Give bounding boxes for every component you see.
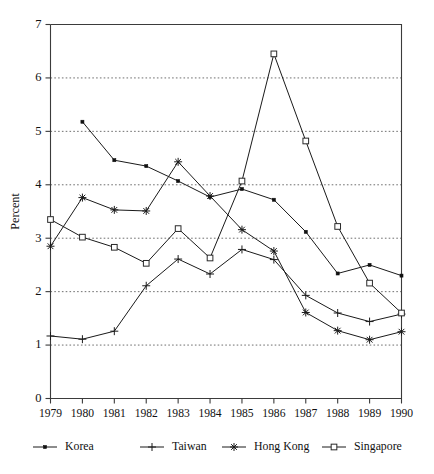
- data-point-singapore-1979: [48, 217, 54, 223]
- open-square-marker-icon: [80, 234, 86, 240]
- data-point-singapore-1990: [399, 310, 405, 316]
- series-polyline: [51, 162, 402, 340]
- chart-figure: 01234567 1979198019811982198319841985198…: [0, 0, 434, 474]
- data-point-hong-kong-1987: [302, 308, 310, 316]
- filled-square-marker-icon: [272, 198, 275, 201]
- data-point-korea-1980: [81, 120, 84, 123]
- plus-marker-icon: [47, 332, 55, 340]
- x-tick-label: 1985: [230, 407, 253, 420]
- y-tick-label: 2: [35, 284, 41, 298]
- x-axis-ticks: 1979198019811982198319841985198619871988…: [39, 399, 413, 420]
- data-point-taiwan-1989: [366, 318, 374, 326]
- data-point-singapore-1984: [207, 255, 213, 261]
- data-point-korea-1986: [272, 198, 275, 201]
- data-point-hong-kong-1989: [366, 336, 374, 344]
- star-marker-icon: [238, 226, 246, 234]
- star-marker-icon: [78, 194, 86, 202]
- data-point-taiwan-1979: [47, 332, 55, 340]
- star-marker-icon: [270, 247, 278, 255]
- filled-square-marker-icon: [336, 272, 339, 275]
- data-point-taiwan-1981: [110, 327, 118, 335]
- y-axis-title: Percent: [8, 193, 22, 230]
- filled-square-marker-icon: [177, 180, 180, 183]
- filled-square-marker-icon: [145, 165, 148, 168]
- data-point-singapore-1981: [111, 244, 117, 250]
- open-square-marker-icon: [271, 51, 277, 57]
- star-marker-icon: [302, 308, 310, 316]
- series-polyline: [51, 249, 402, 339]
- data-point-korea-1981: [113, 159, 116, 162]
- data-point-hong-kong-1990: [398, 328, 406, 336]
- data-point-korea-1989: [368, 263, 371, 266]
- x-tick-label: 1987: [294, 407, 317, 420]
- star-marker-icon: [47, 242, 55, 250]
- series-polyline: [51, 54, 402, 313]
- plus-marker-icon: [148, 443, 156, 451]
- open-square-marker-icon: [48, 217, 54, 223]
- data-point-singapore-1986: [271, 51, 277, 57]
- plus-marker-icon: [110, 327, 118, 335]
- filled-square-marker-icon: [400, 274, 403, 277]
- open-square-marker-icon: [207, 255, 213, 261]
- star-marker-icon: [206, 192, 214, 200]
- x-tick-label: 1980: [71, 407, 94, 420]
- open-square-marker-icon: [111, 244, 117, 250]
- series-taiwan: [47, 245, 406, 343]
- star-marker-icon: [110, 206, 118, 214]
- star-marker-icon: [142, 207, 150, 215]
- star-marker-icon: [174, 158, 182, 166]
- star-marker-icon: [366, 336, 374, 344]
- x-tick-label: 1986: [262, 407, 285, 420]
- filled-square-marker-icon: [304, 230, 307, 233]
- open-square-marker-icon: [175, 226, 181, 232]
- data-point-hong-kong-1980: [78, 194, 86, 202]
- data-point-hong-kong-1981: [110, 206, 118, 214]
- open-square-marker-icon: [331, 444, 337, 450]
- y-axis-ticks: 01234567: [35, 17, 50, 405]
- axes-frame: [51, 25, 402, 399]
- x-tick-label: 1990: [390, 407, 413, 420]
- data-point-hong-kong-1979: [47, 242, 55, 250]
- data-point-singapore-1989: [367, 280, 373, 286]
- legend-label-text: Korea: [65, 439, 95, 453]
- data-point-hong-kong-1983: [174, 158, 182, 166]
- open-square-marker-icon: [399, 310, 405, 316]
- open-square-marker-icon: [239, 178, 245, 184]
- legend-item-hong-kong[interactable]: Hong Kong: [222, 439, 309, 453]
- plus-marker-icon: [78, 335, 86, 343]
- filled-square-marker-icon: [43, 445, 46, 448]
- plus-marker-icon: [206, 270, 214, 278]
- data-point-singapore-1982: [143, 260, 149, 266]
- data-point-hong-kong-1988: [334, 327, 342, 335]
- data-point-legend-hong-kong: [230, 443, 238, 451]
- data-point-korea-1983: [177, 180, 180, 183]
- data-point-legend-korea: [43, 445, 46, 448]
- legend-item-singapore[interactable]: Singapore: [322, 439, 402, 453]
- data-point-hong-kong-1985: [238, 226, 246, 234]
- filled-square-marker-icon: [240, 188, 243, 191]
- data-point-legend-taiwan: [148, 443, 156, 451]
- star-marker-icon: [230, 443, 238, 451]
- data-point-taiwan-1980: [78, 335, 86, 343]
- series-singapore: [48, 51, 405, 316]
- legend-item-korea[interactable]: Korea: [33, 439, 95, 453]
- star-marker-icon: [398, 328, 406, 336]
- open-square-marker-icon: [143, 260, 149, 266]
- data-point-singapore-1988: [335, 224, 341, 230]
- y-tick-label: 7: [35, 17, 41, 31]
- star-marker-icon: [334, 327, 342, 335]
- filled-square-marker-icon: [81, 120, 84, 123]
- y-axis-label-text: Percent: [8, 193, 22, 230]
- x-tick-label: 1984: [198, 407, 221, 420]
- y-tick-label: 1: [35, 337, 41, 351]
- data-point-korea-1988: [336, 272, 339, 275]
- data-point-taiwan-1984: [206, 270, 214, 278]
- data-point-singapore-1987: [303, 138, 309, 144]
- legend-item-taiwan[interactable]: Taiwan: [140, 439, 207, 453]
- grid-lines: [51, 78, 402, 345]
- data-point-korea-1990: [400, 274, 403, 277]
- series-korea: [81, 120, 403, 277]
- line-chart-canvas: 01234567 1979198019811982198319841985198…: [0, 0, 434, 474]
- data-point-taiwan-1985: [238, 245, 246, 253]
- data-point-hong-kong-1982: [142, 207, 150, 215]
